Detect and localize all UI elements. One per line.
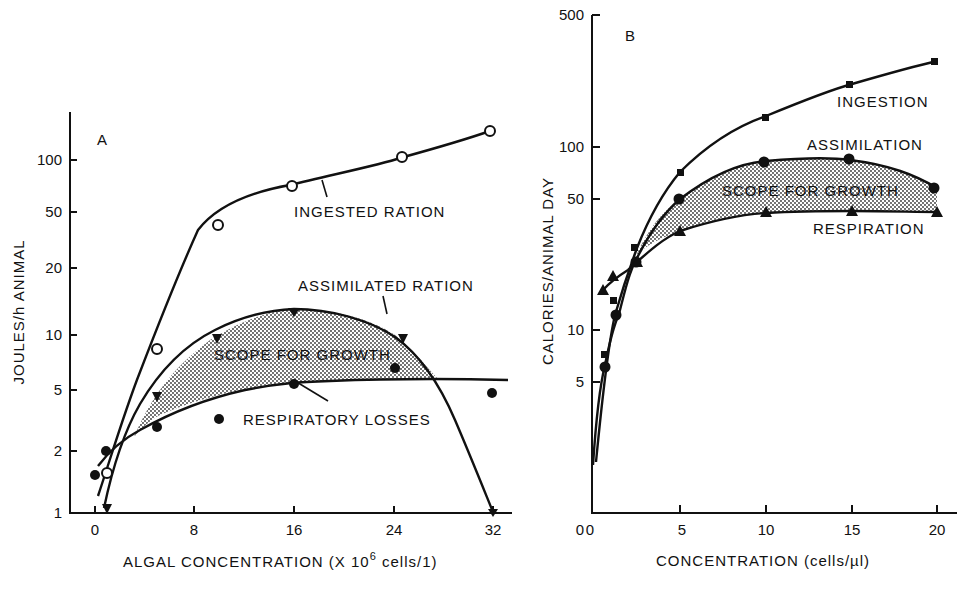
a-xtick-0: 0	[91, 521, 99, 538]
b-xtick-15: 15	[844, 521, 861, 538]
b-ytick-500: 500	[559, 6, 584, 23]
b-ytick-50: 50	[567, 190, 584, 207]
b-ytick-10: 10	[567, 321, 584, 338]
b-xtick-20: 20	[929, 521, 946, 538]
b-x-axis-label: CONCENTRATION (cells/µl)	[656, 552, 870, 569]
a-ytick-5: 5	[54, 381, 62, 398]
b-ytick-100: 100	[559, 138, 584, 155]
a-label-ingested: INGESTED RATION	[294, 203, 445, 220]
a-ytick-2: 2	[54, 442, 62, 459]
b-label-respiration: RESPIRATION	[813, 220, 925, 237]
panel-b-x-ticks: 0 5 10 15 20	[586, 505, 946, 538]
a-label-scope: SCOPE FOR GROWTH	[214, 346, 391, 363]
a-xtick-8: 8	[190, 521, 198, 538]
figure: 100 50 20 10 5 2 1 0 8 16 24 32	[0, 0, 962, 590]
panel-a-x-ticks: 0 8 16 24 32	[91, 506, 502, 538]
b-label-scope: SCOPE FOR GROWTH	[722, 182, 899, 199]
a-x-axis-label: ALGAL CONCENTRATION (X 106 cells/1)	[123, 550, 438, 570]
a-ytick-50: 50	[45, 203, 62, 220]
a-y-axis-label: JOULES/h ANIMAL	[10, 239, 27, 384]
b-xtick-5: 5	[678, 521, 686, 538]
b-label-assimilation: ASSIMILATION	[807, 136, 923, 153]
a-ytick-10: 10	[45, 326, 62, 343]
a-xtick-32: 32	[485, 521, 502, 538]
a-xtick-24: 24	[386, 521, 403, 538]
b-ytick-5: 5	[576, 373, 584, 390]
b-label-ingestion: INGESTION	[837, 93, 929, 110]
b-xtick-10: 10	[758, 521, 775, 538]
panel-b-letter: B	[625, 27, 635, 44]
b-xtick-0: 0	[586, 521, 594, 538]
a-label-respiratory: RESPIRATORY LOSSES	[243, 411, 431, 428]
a-ytick-1: 1	[54, 504, 62, 521]
panel-b: 500 100 50 10 5 0 0 5 10 15 20	[539, 6, 957, 569]
a-ytick-20: 20	[45, 259, 62, 276]
a-ytick-100: 100	[37, 151, 62, 168]
b-ytick-0: 0	[576, 521, 584, 538]
panel-a-letter: A	[97, 131, 107, 148]
a-xtick-16: 16	[286, 521, 303, 538]
a-label-assimilated: ASSIMILATED RATION	[298, 277, 474, 294]
b-ingestion-curve	[596, 61, 937, 462]
panel-b-axes	[592, 15, 957, 513]
b-y-axis-label: CALORIES/ANIMAL DAY	[539, 177, 556, 365]
panel-a: 100 50 20 10 5 2 1 0 8 16 24 32	[10, 112, 512, 570]
